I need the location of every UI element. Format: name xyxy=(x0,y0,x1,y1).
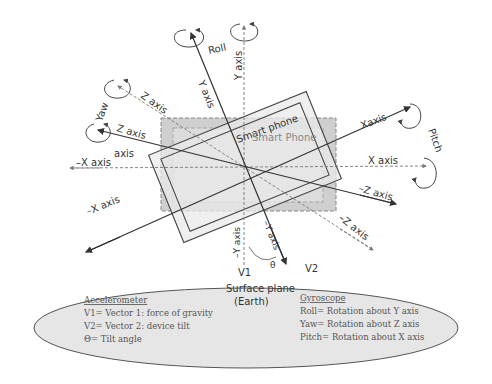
gyroscope-heading: Gyroscope xyxy=(300,293,345,303)
neg-x-axis-tilted-label: –X axis xyxy=(85,194,122,217)
neg-x-axis-tilted-arrow xyxy=(86,237,120,252)
v1-label: V1 xyxy=(238,267,251,278)
yaw-label: Yaw xyxy=(93,101,110,124)
accelerometer-item: V2= Vector 2: device tilt xyxy=(83,321,190,331)
roll-rotation-icon xyxy=(174,30,203,47)
theta-label: θ xyxy=(270,260,276,270)
pitch-label: Pitch xyxy=(426,127,445,154)
surface-plane-label: Surface plane xyxy=(226,283,295,294)
neg-y-axis-tilted-label: –Y axis xyxy=(261,219,282,252)
gyroscope-item: Roll= Rotation about Y axis xyxy=(300,306,419,316)
y-axis-tilted-label: Y axis xyxy=(196,78,218,110)
accelerometer-item: V1= Vector 1: force of gravity xyxy=(83,308,213,318)
gyroscope-item: Pitch= Rotation about X axis xyxy=(300,332,424,342)
y-axis-reference-label: Y axis xyxy=(233,51,244,81)
neg-x-axis-reference-label: –X axis xyxy=(76,157,111,168)
yaw-rotation-icon xyxy=(86,124,110,142)
accelerometer-heading: Accelerometer xyxy=(83,295,148,305)
stray-axis-label: axis xyxy=(114,148,134,159)
x-axis-tilted-label: Xaxis xyxy=(359,111,388,131)
v2-label: V2 xyxy=(305,263,318,274)
pitch-rotation-icon xyxy=(401,104,420,128)
neg-y-axis-reference-label: –Y axis xyxy=(232,227,242,258)
roll-label: Roll xyxy=(207,41,227,56)
smart-phone-reference-label: Smart Phone xyxy=(252,132,316,143)
gyroscope-item: Yaw= Rotation about Z axis xyxy=(299,319,419,329)
accelerometer-item: Θ= Tilt angle xyxy=(84,334,142,344)
smartphone-orientation-diagram: Roll Y axis Y axis Z axis Yaw Z axis axi… xyxy=(0,0,492,384)
yaw-reference-rotation-icon xyxy=(105,80,131,98)
x-axis-reference-label: X axis xyxy=(368,155,398,166)
pitch-reference-rotation-icon xyxy=(415,158,436,188)
earth-label: (Earth) xyxy=(234,296,269,307)
